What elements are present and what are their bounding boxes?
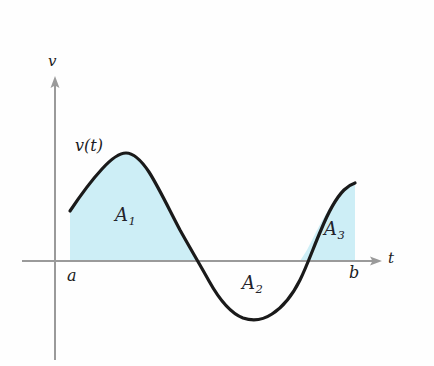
v-axis-label: v (48, 54, 56, 69)
figure-container: v t v(t) a b A1 A2 A3 (0, 0, 434, 366)
t-axis-label: t (388, 251, 394, 266)
area-label-a3-base: A (324, 218, 337, 239)
area-label-a2-base: A (242, 272, 255, 293)
area-label-a2: A2 (242, 274, 263, 295)
area-label-a2-subscript: 2 (255, 282, 263, 296)
area-label-a1-base: A (115, 204, 128, 225)
area-label-a1-subscript: 1 (128, 214, 136, 228)
area-label-a3: A3 (324, 220, 345, 241)
area-label-a3-subscript: 3 (337, 228, 345, 242)
curve-label: v(t) (75, 138, 103, 154)
lower-limit-label: a (67, 268, 77, 284)
velocity-plot (0, 0, 434, 366)
upper-limit-label: b (349, 265, 359, 281)
area-label-a1: A1 (115, 206, 136, 227)
